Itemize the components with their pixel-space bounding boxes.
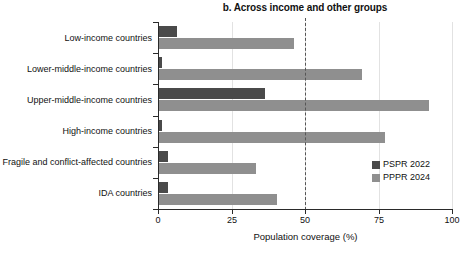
- x-axis-tick-label: 100: [432, 215, 460, 225]
- y-axis-tick: [153, 22, 158, 23]
- legend-swatch-icon: [372, 174, 380, 182]
- category-label: Lower-middle-income countries: [27, 64, 152, 74]
- x-axis-tick-label: 75: [359, 215, 399, 225]
- x-axis-tick-label: 25: [212, 215, 252, 225]
- gridline: [232, 22, 233, 209]
- y-axis-tick: [153, 53, 158, 54]
- y-axis-tick: [153, 178, 158, 179]
- x-axis-tick: [452, 210, 453, 214]
- x-axis-title: Population coverage (%): [158, 231, 453, 242]
- bar: [159, 182, 168, 193]
- legend-label: PPPR 2024: [383, 172, 430, 183]
- category-label: Low-income countries: [64, 33, 152, 43]
- bar: [159, 100, 429, 111]
- x-axis-tick: [379, 210, 380, 214]
- category-label: Upper-middle-income countries: [27, 95, 152, 105]
- x-axis-tick: [232, 210, 233, 214]
- chart-legend: PSPR 2022PPPR 2024: [372, 159, 430, 185]
- bar: [159, 151, 168, 162]
- x-axis-tick: [305, 210, 306, 214]
- legend-item[interactable]: PSPR 2022: [372, 159, 430, 170]
- y-axis-tick: [153, 84, 158, 85]
- bar: [159, 194, 277, 205]
- y-axis-line: [158, 22, 159, 210]
- bar: [159, 69, 362, 80]
- y-axis-tick: [153, 116, 158, 117]
- bar: [159, 57, 162, 68]
- x-axis-tick-label: 0: [138, 215, 178, 225]
- y-axis-tick: [153, 147, 158, 148]
- legend-swatch-icon: [372, 161, 380, 169]
- category-label: High-income countries: [62, 126, 152, 136]
- bar: [159, 88, 265, 99]
- legend-label: PSPR 2022: [383, 159, 430, 170]
- bar: [159, 26, 177, 37]
- bar: [159, 38, 294, 49]
- legend-item[interactable]: PPPR 2024: [372, 172, 430, 183]
- bar-chart: b. Across income and other groups Low-in…: [0, 0, 460, 253]
- category-label: IDA countries: [98, 188, 152, 198]
- bar: [159, 120, 162, 131]
- category-label: Fragile and conflict-affected countries: [3, 157, 152, 167]
- x-axis-tick: [158, 210, 159, 214]
- reference-line-50: [305, 18, 306, 210]
- gridline: [452, 22, 453, 209]
- x-axis-tick-label: 50: [285, 215, 325, 225]
- chart-title: b. Across income and other groups: [155, 2, 455, 13]
- bar: [159, 132, 385, 143]
- bar: [159, 163, 256, 174]
